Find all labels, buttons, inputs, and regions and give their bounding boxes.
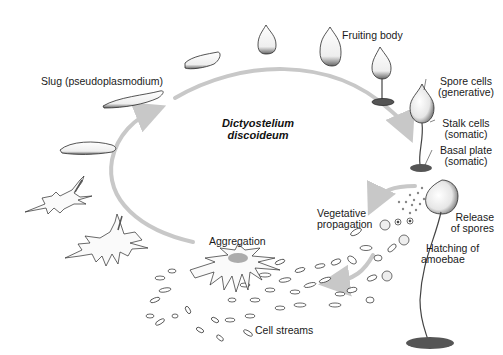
label-basal-plate: Basal plate (somatic) bbox=[432, 145, 500, 167]
species-epithet: discoideum bbox=[218, 129, 298, 141]
label-spore-cells: Spore cells (generative) bbox=[430, 76, 502, 98]
slug-shapes bbox=[60, 52, 220, 154]
cycle-arrows bbox=[111, 69, 415, 283]
label-slug: Slug (pseudoplasmodium) bbox=[41, 76, 163, 87]
releasing-basal-plate bbox=[406, 337, 454, 349]
label-aggregation: Aggregation bbox=[209, 236, 266, 247]
germinating-spores bbox=[380, 218, 413, 281]
label-hatching-of-amoebae: Hatching of amoebae bbox=[421, 243, 479, 265]
aggregation-center bbox=[190, 244, 280, 292]
culmination-2 bbox=[320, 27, 341, 66]
spores bbox=[398, 187, 425, 214]
culmination-1 bbox=[258, 25, 276, 54]
label-vegetative-line2: propagation bbox=[317, 219, 372, 230]
label-stalk-cells-line2: (somatic) bbox=[433, 129, 499, 140]
label-stalk-cells: Stalk cells (somatic) bbox=[433, 118, 499, 140]
species-genus: Dictyostelium bbox=[218, 117, 298, 129]
life-cycle-diagram: Dictyostelium discoideum Slug (pseudopla… bbox=[0, 0, 503, 355]
slug-2 bbox=[103, 91, 163, 108]
releasing-spore-head bbox=[426, 180, 458, 214]
slug-1 bbox=[60, 142, 116, 154]
species-title: Dictyostelium discoideum bbox=[218, 117, 298, 141]
label-vegetative-propagation: Vegetative propagation bbox=[317, 208, 372, 230]
label-cell-streams: Cell streams bbox=[255, 325, 313, 336]
label-release-of-spores: Release of spores bbox=[434, 212, 494, 234]
arrow-vegetative bbox=[373, 186, 415, 205]
label-hatching-line2: amoebae bbox=[421, 254, 479, 265]
label-release-line2: of spores bbox=[434, 223, 494, 234]
label-basal-plate-line2: (somatic) bbox=[432, 156, 500, 167]
mound-shapes bbox=[25, 176, 148, 266]
mound-1 bbox=[25, 176, 92, 214]
label-fruiting-body: Fruiting body bbox=[342, 30, 403, 41]
slug-3 bbox=[185, 52, 220, 69]
label-spore-cells-line2: (generative) bbox=[430, 87, 502, 98]
fruiting-young-base bbox=[372, 99, 394, 106]
stalk bbox=[420, 123, 423, 165]
mound-2 bbox=[65, 214, 148, 266]
basal-plate bbox=[410, 164, 432, 172]
arrow-aggregation-to-slug bbox=[111, 110, 193, 242]
diagram-artwork bbox=[0, 0, 503, 355]
fruiting-young-head bbox=[372, 47, 391, 79]
